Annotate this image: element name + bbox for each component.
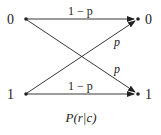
output-label-1: 1 — [145, 87, 152, 102]
output-node-0 — [136, 17, 140, 21]
input-label-0: 0 — [7, 12, 14, 27]
edge-label-1-0: p — [113, 35, 120, 49]
edge-label-0-0: 1 − p — [68, 4, 93, 18]
edge-label-0-1: p — [113, 62, 120, 76]
caption: P(r|c) — [64, 110, 96, 125]
bsc-diagram: 0 1 0 1 1 − p p p 1 − p P(r|c) — [0, 0, 161, 135]
input-label-1: 1 — [7, 87, 14, 102]
edge-label-1-1: 1 − p — [68, 79, 93, 93]
output-label-0: 0 — [145, 12, 152, 27]
output-node-1 — [136, 92, 140, 96]
